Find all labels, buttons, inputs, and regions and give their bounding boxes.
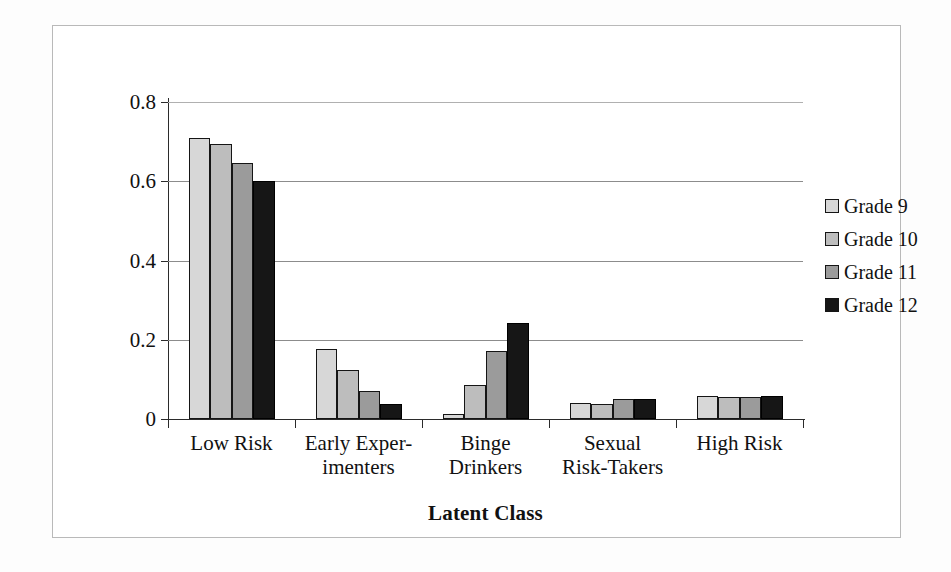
legend: Grade 9Grade 10Grade 11Grade 12 xyxy=(825,189,918,321)
legend-item-label: Grade 11 xyxy=(844,262,917,282)
x-axis-line xyxy=(168,419,805,420)
plot-area: 00.20.40.60.8 Low RiskEarly Exper-imente… xyxy=(168,102,803,419)
x-axis-tick xyxy=(295,419,296,428)
y-axis-tick-label: 0.2 xyxy=(130,329,156,350)
bar xyxy=(613,399,635,419)
bar xyxy=(507,323,529,419)
legend-swatch-icon xyxy=(825,232,839,246)
y-axis-tick xyxy=(161,419,168,420)
bar xyxy=(232,163,254,419)
bar xyxy=(210,144,232,419)
bar xyxy=(380,404,402,419)
y-axis-tick-label: 0 xyxy=(146,409,157,430)
y-axis-tick xyxy=(161,261,168,262)
y-axis-tick xyxy=(161,181,168,182)
bar xyxy=(718,397,740,419)
legend-swatch-icon xyxy=(825,265,839,279)
x-axis-category-label: BingeDrinkers xyxy=(449,432,522,479)
chart-page: 00.20.40.60.8 Low RiskEarly Exper-imente… xyxy=(0,0,951,572)
legend-item-label: Grade 12 xyxy=(844,295,918,315)
gridline xyxy=(168,102,803,103)
figure-frame: 00.20.40.60.8 Low RiskEarly Exper-imente… xyxy=(52,25,901,538)
bar xyxy=(570,403,592,419)
legend-item: Grade 11 xyxy=(825,255,918,288)
bar xyxy=(253,181,275,419)
x-axis-tick xyxy=(549,419,550,428)
x-axis-category-label: Low Risk xyxy=(190,432,272,456)
x-axis-category-label: SexualRisk-Takers xyxy=(562,432,663,479)
bar xyxy=(761,396,783,419)
legend-item-label: Grade 9 xyxy=(844,196,908,216)
legend-item: Grade 10 xyxy=(825,222,918,255)
bar xyxy=(316,349,338,419)
y-axis-tick xyxy=(161,340,168,341)
y-axis-tick-label: 0.8 xyxy=(130,92,156,113)
bar xyxy=(337,370,359,419)
x-axis-category-label: High Risk xyxy=(697,432,783,456)
legend-swatch-icon xyxy=(825,199,839,213)
legend-swatch-icon xyxy=(825,298,839,312)
x-axis-title: Latent Class xyxy=(168,501,803,526)
y-axis-tick-label: 0.6 xyxy=(130,171,156,192)
legend-item: Grade 9 xyxy=(825,189,918,222)
bar xyxy=(634,399,656,419)
bar xyxy=(591,404,613,419)
x-axis-tick xyxy=(422,419,423,428)
legend-item: Grade 12 xyxy=(825,288,918,321)
y-axis-tick-label: 0.4 xyxy=(130,250,156,271)
bar xyxy=(486,351,508,419)
x-axis-tick xyxy=(168,419,169,428)
x-axis-tick xyxy=(676,419,677,428)
x-axis-tick xyxy=(803,419,804,428)
bar xyxy=(464,385,486,419)
bar xyxy=(697,396,719,419)
bar xyxy=(189,138,211,419)
legend-item-label: Grade 10 xyxy=(844,229,918,249)
y-axis-tick xyxy=(161,102,168,103)
x-axis-category-label: Early Exper-imenters xyxy=(305,432,412,479)
bar xyxy=(359,391,381,419)
bar xyxy=(443,414,465,419)
bar xyxy=(740,397,762,419)
